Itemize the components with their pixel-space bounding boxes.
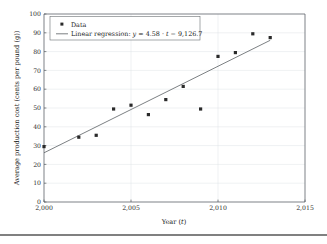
y-tick-label: 10 bbox=[33, 179, 41, 186]
legend-label-data: Data bbox=[71, 21, 87, 29]
data-point bbox=[164, 98, 167, 101]
x-tick-label: 2,005 bbox=[122, 204, 140, 211]
y-tick-label: 20 bbox=[33, 161, 41, 168]
production-cost-scatter-chart: 0 10 20 30 40 50 60 70 80 90 100 2,000 2… bbox=[0, 0, 327, 244]
legend-eq-tail: − 9,126.7 bbox=[169, 30, 203, 38]
footer-divider bbox=[0, 234, 327, 236]
x-axis-title: Year (t) bbox=[161, 218, 187, 226]
y-tick-label: 40 bbox=[33, 123, 41, 130]
legend-data-marker-icon bbox=[60, 23, 63, 26]
data-point bbox=[269, 36, 272, 39]
chart-legend: Data Linear regression: y = 4.58 · t − 9… bbox=[50, 17, 202, 41]
y-tick-label: 100 bbox=[29, 10, 41, 17]
data-point bbox=[199, 107, 202, 110]
legend-regression-prefix: Linear regression: bbox=[71, 30, 133, 38]
y-axis-title: Average production cost (cents per pound… bbox=[13, 30, 21, 186]
y-tick-label: 30 bbox=[33, 142, 41, 149]
legend-eq-equals: = 4.58 · bbox=[136, 30, 166, 38]
y-tick-label: 70 bbox=[33, 67, 41, 74]
legend-label-regression: Linear regression: y = 4.58 · t − 9,126.… bbox=[71, 30, 202, 38]
x-tick-label: 2,015 bbox=[296, 204, 314, 211]
data-point bbox=[216, 55, 219, 58]
data-point bbox=[112, 107, 115, 110]
data-point bbox=[42, 145, 45, 148]
x-tick-labels: 2,000 2,005 2,010 2,015 bbox=[35, 204, 314, 211]
chart-figure: 0 10 20 30 40 50 60 70 80 90 100 2,000 2… bbox=[0, 0, 327, 244]
data-point bbox=[182, 85, 185, 88]
y-tick-label: 50 bbox=[33, 104, 41, 111]
data-point bbox=[251, 32, 254, 35]
x-tick-label: 2,000 bbox=[35, 204, 53, 211]
data-point bbox=[77, 136, 80, 139]
y-tick-label: 80 bbox=[33, 48, 41, 55]
data-point bbox=[147, 113, 150, 116]
y-tick-labels: 0 10 20 30 40 50 60 70 80 90 100 bbox=[29, 10, 41, 205]
y-tick-label: 90 bbox=[33, 29, 41, 36]
x-tick-label: 2,010 bbox=[209, 204, 227, 211]
y-tick-label: 60 bbox=[33, 85, 41, 92]
data-point bbox=[129, 104, 132, 107]
x-axis-title-close: ) bbox=[184, 218, 187, 226]
x-axis-title-main: Year ( bbox=[161, 218, 182, 226]
data-point bbox=[95, 134, 98, 137]
data-point bbox=[234, 51, 237, 54]
